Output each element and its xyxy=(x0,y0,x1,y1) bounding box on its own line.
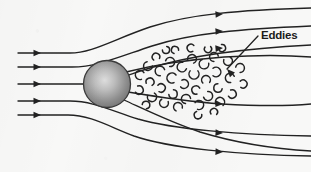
figure-canvas: Eddies xyxy=(0,0,311,172)
flow-arrowhead xyxy=(215,148,223,155)
eddy-curl xyxy=(240,80,247,89)
eddy-curl xyxy=(187,44,194,53)
eddy-curl xyxy=(189,71,199,79)
eddy-curl xyxy=(134,69,144,80)
flow-past-sphere-figure: Eddies xyxy=(0,0,311,172)
eddies-label: Eddies xyxy=(261,29,298,41)
flow-arrowhead xyxy=(34,81,42,88)
eddy-curl xyxy=(197,59,209,71)
eddy-curl xyxy=(204,46,212,52)
flow-arrowhead xyxy=(215,28,223,35)
flow-arrowhead xyxy=(215,129,223,136)
annotation-eddies: Eddies xyxy=(225,29,298,77)
eddy-curl xyxy=(210,108,218,114)
eddy-curl xyxy=(190,84,200,94)
eddy-curl xyxy=(165,56,176,68)
flow-arrowhead xyxy=(34,98,42,105)
eddy-curl xyxy=(175,61,187,73)
eddy-curl xyxy=(179,92,191,104)
eddy-curl xyxy=(223,57,234,67)
streamline-bottom-1 xyxy=(18,98,311,137)
eddy-curl xyxy=(195,99,205,110)
eddy-curl xyxy=(145,77,155,86)
eddy-curl xyxy=(235,62,246,73)
eddy-curl xyxy=(212,83,223,94)
eddy-curl xyxy=(151,52,160,60)
streamline-wake-upper xyxy=(18,45,311,88)
flow-arrowhead xyxy=(215,11,223,18)
flow-arrowhead xyxy=(34,112,42,119)
sphere-group xyxy=(84,61,131,108)
eddy-curl xyxy=(170,45,179,54)
eddy-curl xyxy=(228,89,237,99)
flow-arrowhead xyxy=(34,50,42,57)
annotation-group: Eddies xyxy=(225,29,298,77)
eddy-curl xyxy=(166,72,176,84)
streamline-bottom-3 xyxy=(124,100,311,151)
eddy-curl xyxy=(193,111,203,120)
eddy-curl xyxy=(158,83,166,92)
eddy-curl xyxy=(181,79,190,89)
flow-arrowhead xyxy=(34,64,42,71)
eddy-curl xyxy=(172,101,183,111)
eddy-curl xyxy=(203,91,214,103)
eddy-curl xyxy=(158,99,169,109)
eddies-group xyxy=(134,44,247,121)
streamline-wake-edge-upper xyxy=(126,56,311,73)
eddy-curl xyxy=(201,75,210,83)
eddy-curl xyxy=(213,67,221,77)
eddy-curl xyxy=(162,46,171,55)
sphere-obstacle xyxy=(84,61,131,108)
